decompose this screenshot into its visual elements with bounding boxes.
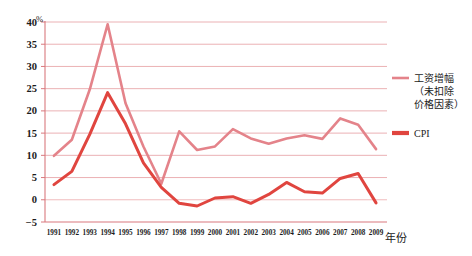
x-axis-tick-label: 2009: [369, 229, 384, 237]
axes: [41, 21, 387, 222]
x-axis-tick-label: 2004: [279, 229, 294, 237]
x-axis-tick-labels: 1991199219931994199519961997199819992000…: [47, 229, 384, 237]
x-axis-tick-label: 2000: [208, 229, 223, 237]
legend-label-wage-growth[interactable]: 工资增幅: [414, 72, 454, 84]
x-axis-tick-label: 2006: [315, 229, 330, 237]
y-axis-tick-label: 30: [27, 61, 38, 72]
y-axis-tick-label: 25: [27, 83, 38, 94]
y-axis-tick-label: −5: [26, 217, 37, 228]
chart-container: 4035302520151050−5 199119921993199419951…: [0, 0, 472, 256]
chart-legend: 工资增幅（未扣除价格因素）CPI: [392, 72, 464, 139]
y-axis-tick-label: 10: [27, 150, 38, 161]
y-axis-tick-label: 0: [32, 194, 37, 205]
x-axis-tick-label: 1998: [172, 229, 187, 237]
y-axis-unit-label: %: [36, 14, 43, 24]
y-axis-tick-label: 20: [27, 105, 38, 116]
x-axis-tick-label: 2005: [297, 229, 312, 237]
x-axis-tick-label: 1997: [154, 229, 169, 237]
line-chart-svg: 4035302520151050−5 199119921993199419951…: [0, 0, 472, 256]
x-axis-tick-label: 1994: [100, 229, 115, 237]
x-axis-tick-label: 2007: [333, 229, 348, 237]
y-axis-tick-label: 15: [27, 128, 38, 139]
x-axis-title: 年份: [385, 231, 407, 244]
y-axis-tick-labels: 4035302520151050−5: [26, 17, 37, 228]
series-line-cpi: [54, 93, 376, 206]
x-axis-tick-label: 2001: [226, 229, 241, 237]
gridlines: [45, 22, 387, 200]
legend-label-wage-growth-line-3: 价格因素）: [414, 98, 464, 110]
x-axis-tick-label: 1999: [190, 229, 205, 237]
x-axis-tick-label: 1991: [47, 229, 62, 237]
y-axis-tick-label: 35: [27, 39, 38, 50]
legend-label-wage-growth-line-2: （未扣除: [414, 85, 454, 97]
x-axis-tick-label: 2003: [261, 229, 276, 237]
x-axis-tick-label: 2002: [244, 229, 259, 237]
x-axis-tick-label: 1992: [65, 229, 80, 237]
x-axis-tick-label: 1996: [136, 229, 151, 237]
x-axis-tick-label: 1995: [118, 229, 133, 237]
legend-label-cpi[interactable]: CPI: [414, 128, 430, 139]
y-axis-tick-label: 5: [32, 172, 37, 183]
x-axis-tick-label: 2008: [351, 229, 366, 237]
x-axis-tick-label: 1993: [83, 229, 98, 237]
data-series: [54, 24, 376, 206]
